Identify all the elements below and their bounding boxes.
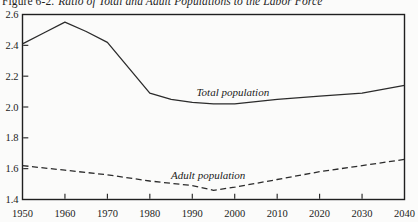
x-tick-label: 2030 xyxy=(352,208,373,219)
x-tick-label: 2040 xyxy=(394,208,415,219)
x-tick-label: 1990 xyxy=(182,208,203,219)
y-tick-label: 1.6 xyxy=(5,163,18,174)
line-chart: 1950196019701980199020002010202020302040… xyxy=(0,0,418,222)
y-tick-label: 1.8 xyxy=(5,132,18,143)
adult-population-label: Adult population xyxy=(170,169,246,181)
figure-caption-text: Ratio of Total and Adult Populations to … xyxy=(58,0,322,7)
x-tick-label: 1960 xyxy=(54,208,75,219)
y-tick-label: 2.2 xyxy=(5,71,18,82)
x-tick-label: 2000 xyxy=(224,208,245,219)
x-tick-label: 1980 xyxy=(139,208,160,219)
figure-number: Figure 6-2. xyxy=(2,0,54,7)
x-tick-label: 2020 xyxy=(309,208,330,219)
figure-container: Figure 6-2.Ratio of Total and Adult Popu… xyxy=(0,0,418,222)
total-population-label: Total population xyxy=(197,86,270,98)
x-tick-label: 2010 xyxy=(267,208,288,219)
y-tick-label: 2.0 xyxy=(5,102,18,113)
y-tick-label: 1.4 xyxy=(5,194,19,205)
y-tick-label: 2.4 xyxy=(5,40,19,51)
x-tick-label: 1970 xyxy=(97,208,118,219)
x-tick-label: 1950 xyxy=(12,208,33,219)
figure-title: Figure 6-2.Ratio of Total and Adult Popu… xyxy=(2,0,322,7)
y-tick-label: 2.6 xyxy=(5,9,18,20)
